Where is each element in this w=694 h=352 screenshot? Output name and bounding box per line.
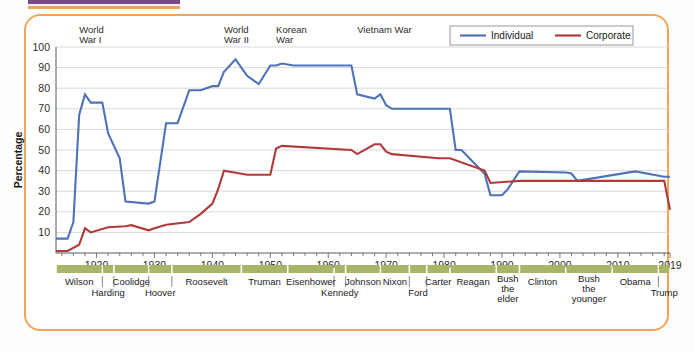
series-line-corporate — [56, 144, 670, 251]
y-tick-label-90: 90 — [38, 61, 50, 73]
war-annotation-line2-1: War II — [224, 34, 249, 45]
war-annotations-group: WorldWar IWorldWar IIKoreanWarVietnam Wa… — [79, 24, 411, 45]
legend-label-individual: Individual — [491, 30, 533, 41]
war-annotation-line2-2: War — [276, 34, 293, 45]
x-axis-ticks-group — [62, 253, 670, 258]
y-axis-label: Percentage — [12, 132, 24, 189]
y-tick-label-70: 70 — [38, 102, 50, 114]
war-annotation-line2-0: War I — [79, 34, 101, 45]
president-bar-carter — [428, 265, 450, 273]
y-tick-label-50: 50 — [38, 144, 50, 156]
y-tick-label-30: 30 — [38, 185, 50, 197]
president-label-clinton: Clinton — [528, 276, 558, 287]
president-label-kennedy: Kennedy — [321, 287, 359, 298]
president-bar-harding — [103, 265, 113, 273]
president-bar-bush-the-elder — [497, 265, 519, 273]
y-tick-label-20: 20 — [38, 205, 50, 217]
president-bar-bush-the-younger — [567, 265, 612, 273]
tax-rate-line-chart: 102030405060708090100 Percentage 1920193… — [0, 0, 694, 352]
president-label-wilson: Wilson — [65, 276, 94, 287]
y-tick-label-60: 60 — [38, 123, 50, 135]
president-label-bush-the-younger-line2: younger — [572, 293, 606, 304]
president-label-nixon: Nixon — [383, 276, 407, 287]
gridlines-group — [56, 47, 670, 232]
president-label-coolidge: Coolidge — [113, 276, 151, 287]
president-bar-clinton — [520, 265, 565, 273]
y-tick-label-100: 100 — [32, 41, 50, 53]
president-label-obama: Obama — [620, 276, 652, 287]
president-labels-group: WilsonHardingCoolidgeHooverRooseveltTrum… — [65, 273, 678, 304]
president-bar-eisenhower — [288, 265, 333, 273]
president-bar-obama — [613, 265, 658, 273]
president-bar-nixon — [381, 265, 408, 273]
president-label-johnson: Johnson — [345, 276, 381, 287]
president-bar-roosevelt — [173, 265, 241, 273]
legend-label-corporate: Corporate — [586, 30, 631, 41]
president-bar-kennedy — [335, 265, 345, 273]
president-label-reagan: Reagan — [456, 276, 489, 287]
president-label-eisenhower: Eisenhower — [286, 276, 336, 287]
y-axis-tick-labels: 102030405060708090100 — [32, 41, 50, 238]
president-label-trump: Trump — [651, 287, 678, 298]
president-label-roosevelt: Roosevelt — [185, 276, 228, 287]
president-label-harding: Harding — [91, 287, 124, 298]
war-annotation-line1-3: Vietnam War — [357, 24, 411, 35]
president-bar-reagan — [451, 265, 496, 273]
president-label-carter: Carter — [425, 276, 451, 287]
president-bar-hoover — [149, 265, 171, 273]
president-bar-wilson — [57, 265, 102, 273]
president-bar-johnson — [346, 265, 379, 273]
y-tick-label-80: 80 — [38, 82, 50, 94]
president-label-hoover: Hoover — [145, 287, 176, 298]
chart-legend: IndividualCorporate — [450, 26, 633, 45]
president-label-ford: Ford — [408, 287, 428, 298]
president-bar-truman — [242, 265, 287, 273]
president-bar-ford — [410, 265, 426, 273]
president-bar-trump — [659, 265, 669, 273]
y-tick-label-40: 40 — [38, 164, 50, 176]
chart-figure: 102030405060708090100 Percentage 1920193… — [0, 0, 694, 352]
president-bar-coolidge — [115, 265, 148, 273]
y-tick-label-10: 10 — [38, 226, 50, 238]
president-label-truman: Truman — [248, 276, 280, 287]
president-label-bush-the-elder-line2: elder — [497, 293, 518, 304]
